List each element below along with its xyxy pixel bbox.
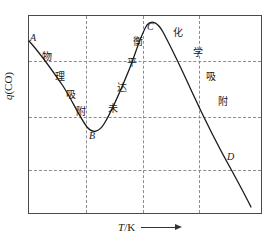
region-label-chemical-char-1: 化 [173, 28, 183, 38]
figure-container: q(CO) A B C D 物 理 吸 附 衡 平 达 未 化 学 吸 附 T/… [0, 0, 274, 245]
adsorption-curve [29, 22, 251, 207]
region-label-chemical-char-2: 学 [193, 48, 203, 58]
x-axis-title-group: T/K [118, 221, 183, 233]
region-label-chemical-char-3: 吸 [206, 72, 216, 82]
region-label-physical-char-3: 吸 [66, 90, 76, 100]
region-label-physical-char-4: 附 [76, 107, 86, 117]
point-label-c: C [147, 22, 154, 32]
region-label-equilibrium-char-1: 衡 [133, 37, 143, 47]
point-label-a: A [30, 33, 36, 43]
point-label-b: B [89, 131, 95, 141]
region-label-physical-char-2: 理 [55, 72, 65, 82]
point-label-d: D [227, 152, 234, 162]
region-label-equilibrium-char-3: 达 [117, 83, 127, 93]
region-label-chemical-char-4: 附 [218, 97, 228, 107]
region-label-equilibrium-char-4: 未 [108, 104, 118, 114]
x-axis-unit: /K [124, 221, 135, 233]
right-arrow-icon [141, 224, 183, 231]
x-axis-title: T/K [118, 221, 135, 233]
region-label-equilibrium-char-2: 平 [127, 58, 137, 68]
region-label-physical-char-1: 物 [42, 52, 52, 62]
